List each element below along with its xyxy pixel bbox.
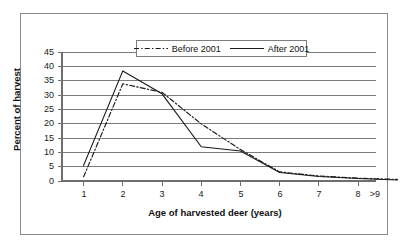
series-line-before-2001 (84, 84, 398, 180)
legend-entry-after-2001: After 2001 (230, 44, 310, 54)
chart-legend: Before 2001 After 2001 (136, 40, 307, 57)
x-tick-3: 3 (153, 190, 171, 199)
gridlines (62, 52, 376, 167)
x-tick-6: 6 (271, 190, 289, 199)
y-tick-40: 40 (38, 62, 54, 71)
y-tick-30: 30 (38, 91, 54, 100)
y-tick-15: 15 (38, 134, 54, 143)
y-tick-45: 45 (38, 48, 54, 57)
x-tick-4: 4 (192, 190, 210, 199)
chart-figure: 45 40 35 30 25 20 15 10 5 0 1 2 3 4 5 6 … (0, 0, 410, 247)
legend-label-before-2001: Before 2001 (172, 44, 221, 54)
x-tick-gt9: >9 (366, 190, 384, 199)
x-tick-7: 7 (310, 190, 328, 199)
x-tick-8: 8 (349, 190, 367, 199)
y-axis-title: Percent of harvest (11, 60, 22, 160)
solid-line-icon (230, 45, 264, 52)
x-tick-2: 2 (114, 190, 132, 199)
y-tick-0: 0 (38, 177, 54, 186)
y-tick-35: 35 (38, 76, 54, 85)
legend-entry-before-2001: Before 2001 (134, 44, 221, 54)
y-tick-20: 20 (38, 119, 54, 128)
x-axis-ticks (84, 181, 359, 185)
y-tick-25: 25 (38, 105, 54, 114)
y-tick-10: 10 (38, 148, 54, 157)
y-tick-5: 5 (38, 162, 54, 171)
dash-dot-line-icon (134, 45, 168, 52)
x-tick-1: 1 (75, 190, 93, 199)
legend-label-after-2001: After 2001 (268, 44, 310, 54)
x-tick-5: 5 (232, 190, 250, 199)
series-line-after-2001 (84, 71, 398, 180)
x-axis-title: Age of harvested deer (years) (55, 207, 375, 218)
